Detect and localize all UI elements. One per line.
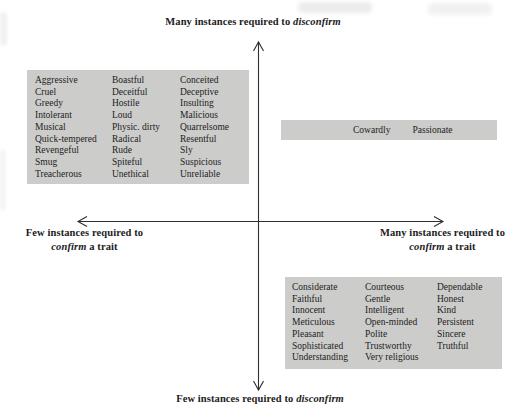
axis-label-left-emphasis: confirm <box>51 241 86 252</box>
axis-label-right-rest: a trait <box>447 241 475 252</box>
axis-label-top-text: Many instances required to <box>165 16 290 27</box>
axis-label-top-emphasis: disconfirm <box>293 16 341 27</box>
trait-column: Boastful Deceitful Hostile Loud Physic. … <box>112 75 180 184</box>
axis-label-left-rest: a trait <box>89 241 117 252</box>
trait-item: Cowardly <box>353 125 390 135</box>
axis-label-bottom-emphasis: disconfirm <box>296 393 344 404</box>
trait-column: Aggressive Cruel Greedy Intolerant Music… <box>35 75 112 184</box>
axis-label-right-emphasis: confirm <box>409 241 444 252</box>
trait-column: Considerate Faithful Innocent Meticulous… <box>292 282 365 369</box>
axis-label-bottom-text: Few instances required to <box>176 393 293 404</box>
axis-label-right: Many instances required to confirm a tra… <box>360 226 525 254</box>
axis-label-left-line1: Few instances required to <box>26 227 143 238</box>
trait-column: Courteous Gentle Intelligent Open-minded… <box>365 282 437 369</box>
trait-column: Conceited Deceptive Insulting Malicious … <box>180 75 229 184</box>
trait-item: Passionate <box>412 125 452 135</box>
axis-label-right-line1: Many instances required to <box>380 227 505 238</box>
quadrant-diagram: Many instances required to disconfirm Fe… <box>0 0 525 418</box>
axis-label-left: Few instances required to confirm a trai… <box>2 226 167 254</box>
trait-column: Dependable Honest Kind Persistent Sincer… <box>437 282 482 369</box>
axis-label-bottom: Few instances required to disconfirm <box>110 392 410 406</box>
axis-label-top: Many instances required to disconfirm <box>103 15 403 29</box>
trait-box-top-right: Cowardly Passionate <box>281 120 497 140</box>
trait-box-top-left: Aggressive Cruel Greedy Intolerant Music… <box>27 70 249 184</box>
trait-box-bottom-right: Considerate Faithful Innocent Meticulous… <box>285 277 502 369</box>
